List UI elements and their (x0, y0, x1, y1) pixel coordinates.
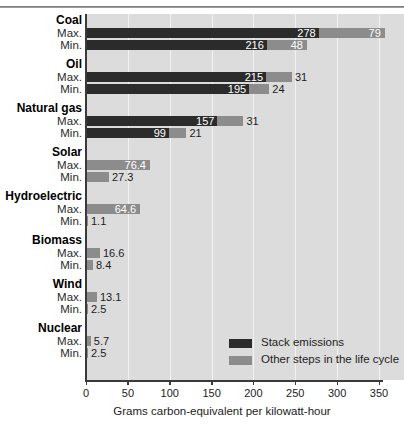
x-tick-label: 300 (328, 387, 346, 399)
x-tick (253, 380, 255, 385)
bar-value-other: 24 (272, 83, 284, 95)
row-label: Min. (60, 303, 82, 315)
bar-segment-other-steps (249, 84, 269, 94)
row-label: Max. (57, 159, 82, 171)
bar-value-other: 13.1 (100, 291, 121, 303)
bar-segment-stack-emissions (86, 40, 267, 50)
bar-row: 27.3 (86, 172, 404, 182)
row-label: Max. (57, 247, 82, 259)
bars-layer: 2787921648215311952415731992176.427.364.… (86, 14, 404, 380)
bar-value-stack: 99 (154, 127, 166, 139)
bar-value-other: 79 (369, 27, 381, 39)
category-label-oil: Oil (66, 57, 82, 71)
row-label: Max. (57, 27, 82, 39)
top-divider (0, 6, 404, 8)
row-label: Min. (60, 171, 82, 183)
x-tick (337, 380, 339, 385)
category-label-coal: Coal (56, 13, 82, 27)
row-label: Min. (60, 83, 82, 95)
category-label-hydroelectric: Hydroelectric (5, 189, 82, 203)
bar-row: 8.4 (86, 260, 404, 270)
plot-area: 2787921648215311952415731992176.427.364.… (86, 14, 404, 380)
bar-value-other: 27.3 (112, 171, 133, 183)
bar-value-other: 1.1 (91, 215, 106, 227)
x-tick (211, 380, 213, 385)
x-tick (86, 380, 88, 385)
x-tick-label: 0 (83, 387, 89, 399)
bar-value-other: 2.5 (91, 347, 106, 359)
bar-segment-other-steps (266, 72, 292, 82)
bar-row: 15731 (86, 116, 404, 126)
row-label: Max. (57, 335, 82, 347)
x-tick (379, 380, 381, 385)
y-axis-line (85, 14, 87, 381)
x-tick-label: 200 (244, 387, 262, 399)
bar-row: 19524 (86, 84, 404, 94)
category-label-solar: Solar (52, 145, 82, 159)
x-axis-title: Grams carbon-equivalent per kilowatt-hou… (0, 405, 404, 417)
bar-value-other: 5.7 (94, 335, 109, 347)
bar-row: 21531 (86, 72, 404, 82)
bar-value-other: 16.6 (103, 247, 124, 259)
chart-figure: 2787921648215311952415731992176.427.364.… (0, 0, 404, 429)
x-tick (169, 380, 171, 385)
bar-value-other: 31 (295, 71, 307, 83)
x-tick-label: 100 (161, 387, 179, 399)
bar-row: 2.5 (86, 304, 404, 314)
bar-value-other: 31 (246, 115, 258, 127)
bar-value-other: 76.4 (125, 159, 146, 171)
bar-row: 16.6 (86, 248, 404, 258)
bar-row: 27879 (86, 28, 404, 38)
bar-row: 9921 (86, 128, 404, 138)
category-label-nuclear: Nuclear (38, 321, 82, 335)
bar-segment-stack-emissions (86, 28, 319, 38)
bar-value-other: 8.4 (96, 259, 111, 271)
bar-row: 1.1 (86, 216, 404, 226)
row-label: Min. (60, 347, 82, 359)
row-label: Max. (57, 115, 82, 127)
bar-value-other: 48 (291, 39, 303, 51)
category-label-biomass: Biomass (32, 233, 82, 247)
row-label: Min. (60, 215, 82, 227)
bar-value-stack: 215 (245, 71, 263, 83)
row-label: Max. (57, 291, 82, 303)
category-label-natural-gas: Natural gas (17, 101, 82, 115)
bar-value-stack: 157 (196, 115, 214, 127)
bar-value-stack: 216 (245, 39, 263, 51)
bar-value-other: 2.5 (91, 303, 106, 315)
bar-segment-other-steps (169, 128, 187, 138)
row-label: Min. (60, 127, 82, 139)
x-axis-line (85, 380, 383, 382)
bar-row: 21648 (86, 40, 404, 50)
bar-segment-other-steps (86, 260, 93, 270)
x-tick (295, 380, 297, 385)
category-label-wind: Wind (53, 277, 82, 291)
bar-value-other: 21 (190, 127, 202, 139)
row-label: Max. (57, 71, 82, 83)
x-tick-label: 250 (286, 387, 304, 399)
bar-segment-other-steps (86, 248, 100, 258)
x-tick-label: 50 (122, 387, 134, 399)
bar-segment-other-steps (86, 172, 109, 182)
bar-value-stack: 195 (228, 83, 246, 95)
legend-label-stack: Stack emissions (261, 336, 344, 348)
row-label: Min. (60, 39, 82, 51)
row-label: Max. (57, 203, 82, 215)
bar-value-stack: 278 (297, 27, 315, 39)
bar-segment-stack-emissions (86, 84, 249, 94)
legend-label-other: Other steps in the life cycle (261, 353, 399, 365)
row-label: Min. (60, 259, 82, 271)
bar-segment-other-steps (86, 336, 91, 346)
bar-row: 13.1 (86, 292, 404, 302)
bar-row: 76.4 (86, 160, 404, 170)
bar-row: 64.6 (86, 204, 404, 214)
bar-segment-other-steps (86, 292, 97, 302)
legend-swatch-icon-other (229, 356, 252, 365)
legend-swatch-icon-stack (229, 339, 252, 348)
x-tick (127, 380, 129, 385)
bar-segment-other-steps (217, 116, 243, 126)
bar-value-other: 64.6 (115, 203, 136, 215)
x-tick-label: 350 (370, 387, 388, 399)
x-tick-label: 150 (202, 387, 220, 399)
bar-segment-stack-emissions (86, 72, 266, 82)
